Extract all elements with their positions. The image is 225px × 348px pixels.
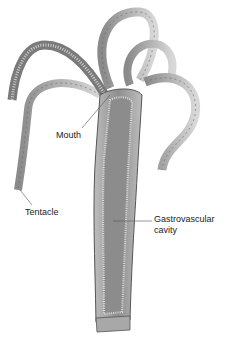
hydra-diagram: Mouth Tentacle Gastrovascular cavity [0,0,225,348]
tentacle-right [145,78,196,170]
label-cavity: cavity [154,225,177,235]
label-mouth: Mouth [56,130,81,140]
basal-disc [96,316,130,332]
label-gastrovascular: Gastrovascular [154,214,215,224]
hydra-illustration [0,0,225,348]
tentacle-leader [20,190,32,205]
label-tentacle: Tentacle [25,207,59,217]
